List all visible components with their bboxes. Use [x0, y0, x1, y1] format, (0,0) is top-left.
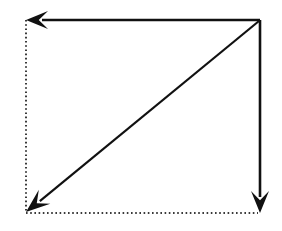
- diagonal-arrow-shaft: [40, 21, 259, 201]
- diagram-svg: [0, 0, 282, 231]
- solid-arrow-shafts: [40, 20, 260, 201]
- figure-canvas: Square diagram with three solid arrows a…: [0, 0, 282, 231]
- down-left-pointing-arrowhead-icon: [26, 190, 50, 212]
